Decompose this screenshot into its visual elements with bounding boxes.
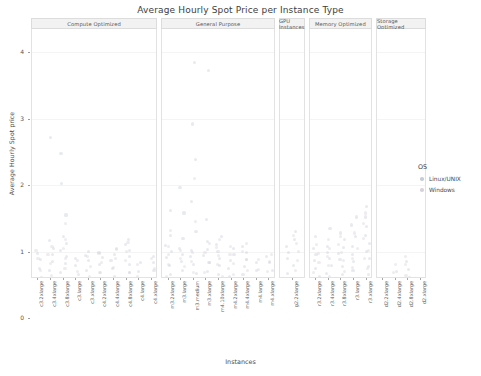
x-tick-mark [353,278,354,280]
data-point [317,252,320,255]
x-tick-label: r3.4xlarge [330,281,335,306]
data-point [257,268,260,271]
data-point [339,235,342,238]
data-point [179,249,182,252]
data-point [215,246,218,249]
data-point [203,251,206,254]
data-point [87,250,90,253]
data-point [404,274,407,277]
data-point [49,262,52,265]
gridline [280,52,304,53]
data-point [338,258,341,261]
x-tick-mark [37,278,38,280]
data-point [193,177,196,180]
chart-title: Average Hourly Spot Price per Instance T… [0,5,481,15]
data-point [190,200,193,203]
data-point [167,245,170,248]
data-point [98,263,101,266]
data-point [51,253,54,256]
x-tick-mark [138,278,139,280]
data-point [46,253,49,256]
data-point [356,247,359,250]
data-point [128,255,131,258]
data-point [313,259,316,262]
data-point [194,158,197,161]
data-point [195,272,198,275]
data-point [245,242,248,245]
x-tick-label: c4.xlarge [153,281,158,304]
x-tick-mark [328,278,329,280]
legend-swatch [418,186,426,194]
legend-label: Windows [429,187,455,193]
data-point [314,267,317,270]
x-tick-label: d2.2xlarge [384,281,389,307]
x-tick-mark [268,278,269,280]
y-tick-label: 0 [2,315,24,321]
data-point [268,260,271,263]
facet-compute-optimized: Compute Optimizedc3.2xlargec3.4xlargec3.… [31,18,157,318]
data-point [286,257,289,260]
data-point [150,257,153,260]
y-tick-label: 2 [2,182,24,188]
data-point [50,245,53,248]
x-tick-label: c3.2xlarge [39,281,44,307]
data-point [339,231,342,234]
data-point [203,271,206,274]
data-point [294,230,297,233]
data-point [328,227,331,230]
x-tick-label: c4.large [140,281,145,301]
x-tick-label: g2.2xlarge [294,281,299,307]
data-point [218,238,221,241]
data-point [64,238,67,241]
data-point [365,225,368,228]
legend-item[interactable]: Windows [418,186,480,194]
legend-title: OS [418,163,480,171]
data-point [351,245,354,248]
data-point [296,259,299,262]
data-point [202,254,205,257]
x-tick-mark [100,278,101,280]
x-tick-mark [315,278,316,280]
data-point [293,238,296,241]
gridline [162,119,274,120]
data-point [126,241,129,244]
facet-panel [309,29,372,278]
data-point [85,269,88,272]
data-point [354,235,357,238]
data-point [232,262,235,265]
x-tick-label: r3.2xlarge [317,281,322,306]
x-tick-group: g2.2xlarge [279,278,305,318]
x-tick-label: d2.xlarge [422,281,427,304]
x-tick-label: c4.4xlarge [115,281,120,307]
data-point [292,264,295,267]
data-point [341,265,344,268]
facet-row: Compute Optimizedc3.2xlargec3.4xlargec3.… [31,18,426,318]
data-point [227,267,230,270]
y-tick-label: 3 [2,116,24,122]
data-point [190,260,193,263]
x-tick-mark [231,278,232,280]
facet-panel [279,29,305,278]
data-point [265,255,268,258]
spot-price-chart: Average Hourly Spot Price per Instance T… [0,0,481,376]
data-point [76,259,79,262]
data-point [181,253,184,256]
legend-item[interactable]: Linux/UNIX [418,175,480,183]
x-tick-label: d2.4xlarge [397,281,402,307]
data-point [328,247,331,250]
x-tick-mark [243,278,244,280]
x-tick-label: m3.large [182,281,187,303]
x-tick-mark [75,278,76,280]
data-point [178,186,181,189]
data-point [343,238,346,241]
data-point [194,230,197,233]
x-tick-label: m3.2xlarge [170,281,175,309]
data-point [315,243,318,246]
data-point [34,249,37,252]
x-tick-mark [340,278,341,280]
x-tick-mark [218,278,219,280]
data-point [355,215,358,218]
data-point [292,234,295,237]
data-point [63,267,66,270]
data-point [368,242,371,245]
